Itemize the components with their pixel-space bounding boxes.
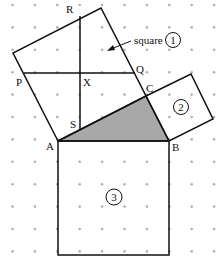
label-x: X: [83, 76, 91, 88]
grid-dot: [168, 26, 171, 29]
grid-dot: [168, 4, 171, 7]
grid-dot: [213, 4, 216, 7]
grid-dot: [78, 4, 81, 7]
grid-dot: [101, 49, 104, 52]
arrowhead-icon: [107, 45, 115, 51]
grid-dot: [56, 26, 59, 29]
label-q: Q: [136, 63, 144, 75]
grid-dot: [213, 26, 216, 29]
grid-dot: [34, 116, 37, 119]
grid-dot: [101, 93, 104, 96]
grid-dot: [123, 228, 126, 231]
grid-dot: [146, 250, 149, 253]
grid-dot: [190, 93, 193, 96]
grid-dot: [123, 183, 126, 186]
grid-dot: [146, 228, 149, 231]
grid-dot: [190, 26, 193, 29]
grid-dot: [11, 183, 14, 186]
grid-dot: [11, 161, 14, 164]
grid-dot: [101, 183, 104, 186]
grid-dot: [213, 228, 216, 231]
grid-dot: [213, 49, 216, 52]
grid-dot: [168, 71, 171, 74]
grid-dot: [146, 183, 149, 186]
square-1-number: 1: [170, 34, 176, 46]
grid-dot: [123, 93, 126, 96]
grid-dot: [190, 49, 193, 52]
pythagoras-diagram: R P X Q C S A B square 1 2 3: [0, 0, 224, 265]
grid-dot: [34, 228, 37, 231]
grid-dot: [146, 26, 149, 29]
grid-dot: [123, 250, 126, 253]
grid-dot: [78, 228, 81, 231]
grid-dot: [213, 161, 216, 164]
grid-dot: [11, 228, 14, 231]
grid-dot: [213, 205, 216, 208]
grid-dot: [146, 49, 149, 52]
grid-dot: [146, 4, 149, 7]
grid-dot: [56, 4, 59, 7]
grid-dot: [213, 183, 216, 186]
grid-dot: [11, 71, 14, 74]
label-r: R: [66, 3, 74, 15]
grid-dot: [34, 49, 37, 52]
grid-dot: [190, 228, 193, 231]
grid-dot: [190, 116, 193, 119]
grid-dot: [11, 116, 14, 119]
annotation-text: square: [134, 34, 163, 46]
grid-dot: [56, 49, 59, 52]
grid-dot: [34, 26, 37, 29]
grid-dot: [34, 138, 37, 141]
grid-dot: [101, 4, 104, 7]
grid-dot: [34, 183, 37, 186]
grid-dot: [213, 93, 216, 96]
grid-dot: [190, 183, 193, 186]
grid-dot: [190, 161, 193, 164]
grid-dot: [190, 71, 193, 74]
grid-dot: [146, 71, 149, 74]
grid-dot: [78, 250, 81, 253]
grid-dot: [123, 205, 126, 208]
grid-dot: [11, 93, 14, 96]
grid-dot: [190, 250, 193, 253]
grid-dot: [34, 161, 37, 164]
grid-dot: [11, 4, 14, 7]
grid-dot: [168, 49, 171, 52]
grid-dot: [190, 4, 193, 7]
grid-dot: [78, 183, 81, 186]
square-2-number: 2: [178, 101, 184, 113]
grid-dot: [123, 26, 126, 29]
grid-dot: [123, 4, 126, 7]
grid-dot: [190, 205, 193, 208]
grid-dot: [101, 26, 104, 29]
grid-dot: [101, 228, 104, 231]
grid-dot: [213, 71, 216, 74]
grid-dot: [78, 161, 81, 164]
grid-dot: [101, 161, 104, 164]
grid-dot: [168, 93, 171, 96]
grid-dot: [56, 93, 59, 96]
grid-dot: [11, 205, 14, 208]
grid-dot: [168, 116, 171, 119]
grid-dot: [34, 250, 37, 253]
grid-dot: [11, 250, 14, 253]
grid-dot: [11, 49, 14, 52]
square-3-number: 3: [111, 191, 117, 203]
grid-dot: [213, 250, 216, 253]
label-b: B: [172, 141, 179, 153]
grid-dot: [101, 250, 104, 253]
grid-dot: [123, 161, 126, 164]
label-a: A: [46, 140, 54, 152]
grid-dot: [213, 138, 216, 141]
grid-dot: [146, 205, 149, 208]
label-c: C: [146, 82, 153, 94]
grid-dot: [101, 205, 104, 208]
grid-dot: [11, 26, 14, 29]
grid-dot: [78, 205, 81, 208]
label-p: P: [16, 76, 22, 88]
grid-dot: [146, 161, 149, 164]
grid-dot: [34, 4, 37, 7]
grid-dot: [190, 138, 193, 141]
grid-dot: [34, 205, 37, 208]
grid-dot: [11, 138, 14, 141]
